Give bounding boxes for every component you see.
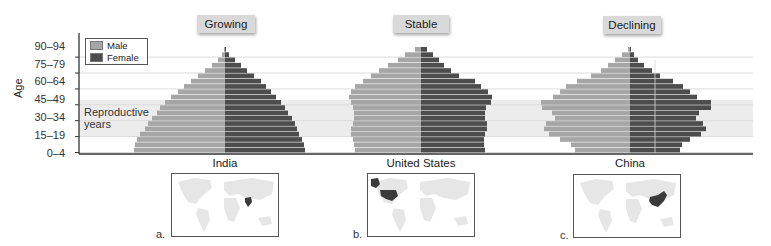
world-map-us-highlight — [368, 174, 474, 236]
male-bar — [212, 63, 225, 68]
male-bar — [555, 116, 630, 121]
female-bar — [630, 95, 697, 100]
tick-label: 75–79 — [19, 58, 65, 70]
female-bar — [421, 111, 485, 116]
male-bar — [566, 84, 630, 89]
female-bar — [421, 142, 484, 147]
male-bar — [134, 148, 225, 153]
female-bar — [225, 63, 241, 68]
female-bar — [421, 127, 487, 132]
male-bar — [354, 142, 421, 147]
tick-label: 0–4 — [19, 147, 65, 159]
male-bar — [198, 74, 225, 79]
female-bar — [630, 137, 690, 142]
female-bar — [225, 95, 276, 100]
female-bar — [421, 74, 459, 79]
female-bar — [225, 121, 295, 126]
female-bar — [421, 63, 444, 68]
male-bar — [160, 105, 225, 110]
female-bar — [421, 105, 486, 110]
world-map-china-highlight — [574, 175, 680, 237]
male-bar — [354, 111, 421, 116]
legend-item-male: Male — [86, 39, 147, 51]
female-bar — [630, 47, 631, 52]
male-bar — [542, 105, 630, 110]
female-bar — [225, 74, 254, 79]
female-bar — [630, 111, 699, 116]
female-bar — [225, 142, 304, 147]
male-bar — [379, 68, 421, 73]
tick-label: 45–49 — [19, 93, 65, 105]
female-bar — [421, 148, 485, 153]
female-bar — [421, 68, 451, 73]
male-bar — [571, 142, 630, 147]
female-bar — [421, 47, 427, 52]
female-bar — [225, 105, 285, 110]
tick-label: 15–19 — [19, 129, 65, 141]
male-bar — [178, 89, 225, 94]
male-bar — [152, 116, 225, 121]
male-swatch — [90, 41, 103, 50]
male-bar — [591, 74, 630, 79]
male-bar — [224, 47, 225, 52]
female-bar — [421, 52, 433, 57]
repro-line-1: Reproductive — [84, 106, 149, 118]
male-bar — [601, 68, 630, 73]
male-bar — [388, 63, 421, 68]
male-bar — [546, 121, 630, 126]
male-bar — [351, 89, 421, 94]
male-bar — [140, 132, 225, 137]
tick-label: 60–64 — [19, 75, 65, 87]
population-pyramids-figure: Age 0–4 15–19 30–34 45–49 60–64 75–79 90… — [0, 0, 771, 246]
female-bar — [630, 52, 634, 57]
female-bar — [630, 74, 660, 79]
female-bar — [630, 127, 706, 132]
male-bar — [553, 95, 630, 100]
female-bar — [630, 142, 682, 147]
female-bar — [630, 100, 711, 105]
female-bar — [225, 132, 299, 137]
male-bar — [615, 58, 630, 63]
male-bar — [363, 79, 421, 84]
female-bar — [225, 68, 247, 73]
female-bar — [225, 148, 305, 153]
female-bar — [630, 116, 696, 121]
female-bar — [225, 52, 229, 57]
male-bar — [353, 137, 421, 142]
male-bar — [351, 100, 421, 105]
reproductive-years-label: Reproductive years — [84, 106, 149, 130]
male-bar — [171, 95, 225, 100]
tick-label: 90–94 — [19, 40, 65, 52]
male-bar — [355, 84, 421, 89]
female-bar — [421, 132, 485, 137]
male-bar — [353, 105, 421, 110]
legend-label-male: Male — [107, 40, 128, 51]
female-bar — [630, 79, 673, 84]
female-bar — [225, 100, 281, 105]
map-india — [171, 173, 279, 237]
male-bar — [165, 100, 225, 105]
female-bar — [225, 127, 297, 132]
male-bar — [405, 52, 421, 57]
repro-line-2: years — [84, 118, 149, 130]
male-bar — [544, 127, 630, 132]
female-bar — [225, 116, 292, 121]
male-bar — [157, 111, 225, 116]
male-bar — [349, 95, 421, 100]
male-bar — [353, 121, 421, 126]
female-bar — [421, 79, 475, 84]
female-bar — [421, 116, 485, 121]
male-bar — [137, 137, 225, 142]
female-bar — [421, 84, 481, 89]
male-bar — [135, 142, 225, 147]
female-bar — [225, 89, 271, 94]
map-letter-c: c. — [560, 229, 569, 241]
male-bar — [351, 127, 421, 132]
female-bar — [225, 47, 226, 52]
male-bar — [148, 121, 225, 126]
map-letter-a: a. — [156, 228, 165, 240]
female-bar — [225, 111, 288, 116]
male-bar — [184, 84, 225, 89]
male-bar — [415, 47, 421, 52]
female-bar — [421, 100, 491, 105]
